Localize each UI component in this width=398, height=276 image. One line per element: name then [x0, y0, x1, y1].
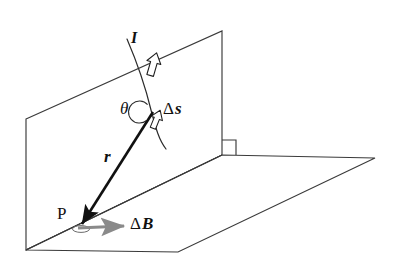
delta-s-delta-symbol: Δ [163, 99, 174, 118]
delta-s-label: Δs [163, 99, 182, 119]
delta-B-delta-symbol: Δ [130, 214, 141, 233]
current-label: I [131, 30, 137, 46]
physics-diagram-figure: I θ Δs r P ΔB [0, 0, 398, 276]
r-vector-label: r [104, 148, 111, 165]
delta-B-vector-symbol: B [142, 214, 153, 233]
delta-B-label: ΔB [130, 214, 153, 234]
angle-theta-label: θ [120, 100, 128, 117]
delta-s-vector-symbol: s [175, 99, 182, 118]
diagram-canvas [0, 0, 398, 276]
delta-B-vector [78, 226, 124, 228]
point-p-label: P [57, 205, 66, 222]
right-angle-marker [222, 140, 236, 155]
